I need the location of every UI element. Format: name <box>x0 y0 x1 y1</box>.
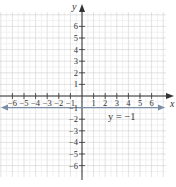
grid <box>0 12 166 177</box>
y-tick-label: −2 <box>69 114 78 124</box>
x-tick-label: 5 <box>138 98 142 108</box>
line-right-arrow-icon <box>158 105 165 111</box>
y-tick-label: 5 <box>74 33 78 43</box>
x-tick-label: 4 <box>126 98 131 108</box>
y-axis-arrow-icon <box>79 4 85 12</box>
y-tick-label: −4 <box>69 137 79 147</box>
y-tick-label: 3 <box>74 56 78 66</box>
x-tick-label: 6 <box>149 98 153 108</box>
x-tick-label: 1 <box>91 98 95 108</box>
x-tick-label: −6 <box>8 98 17 108</box>
x-tick-label: −2 <box>54 98 63 108</box>
y-tick-label: 6 <box>74 21 78 31</box>
x-tick-label: −4 <box>31 98 41 108</box>
axes <box>0 4 174 180</box>
x-tick-label: −3 <box>43 98 52 108</box>
y-tick-label: 2 <box>74 68 78 78</box>
x-tick-label: −5 <box>19 98 28 108</box>
x-tick-label: 2 <box>103 98 107 108</box>
y-tick-label: −6 <box>69 161 78 171</box>
y-tick-label: 1 <box>74 79 78 89</box>
coordinate-plane: −6−5−4−3−2−1123456654321−1−2−3−4−5−6xyy … <box>0 0 176 187</box>
y-axis-label: y <box>71 1 77 12</box>
line-equation-label: y = −1 <box>108 111 136 122</box>
y-tick-label: −3 <box>69 126 78 136</box>
x-tick-label: 3 <box>115 98 119 108</box>
y-tick-label: −5 <box>69 149 78 159</box>
y-tick-label: −1 <box>69 103 78 113</box>
x-axis-label: x <box>169 98 175 109</box>
